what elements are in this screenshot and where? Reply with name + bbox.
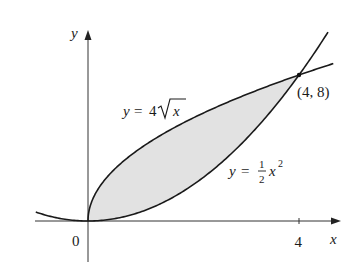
svg-text:2: 2 xyxy=(259,173,265,185)
region-diagram: y x 0 4 (4, 8) y = 4 x y = 1 2 x 2 xyxy=(0,0,355,272)
origin-label: 0 xyxy=(72,233,80,249)
svg-text:=: = xyxy=(241,163,249,179)
x-axis-arrow-icon xyxy=(331,218,341,225)
intersection-label: (4, 8) xyxy=(297,84,330,101)
svg-text:y: y xyxy=(121,103,130,119)
svg-text:x: x xyxy=(268,163,276,179)
x-tick-label-4: 4 xyxy=(295,234,303,250)
svg-text:1: 1 xyxy=(259,158,265,170)
y-axis-arrow-icon xyxy=(85,30,92,40)
x-axis-label: x xyxy=(329,231,337,247)
y-axis-label: y xyxy=(69,25,78,41)
shaded-region xyxy=(88,75,299,221)
svg-text:x: x xyxy=(172,103,180,119)
svg-text:2: 2 xyxy=(278,158,283,169)
radical-sign-icon xyxy=(158,99,186,118)
intersection-point xyxy=(297,73,301,77)
parabola-curve-label: y = 1 2 x 2 xyxy=(227,158,283,185)
svg-text:y: y xyxy=(227,163,236,179)
svg-text:=: = xyxy=(134,103,142,119)
sqrt-curve-label: y = 4 x xyxy=(121,99,186,119)
svg-text:4: 4 xyxy=(149,103,157,119)
